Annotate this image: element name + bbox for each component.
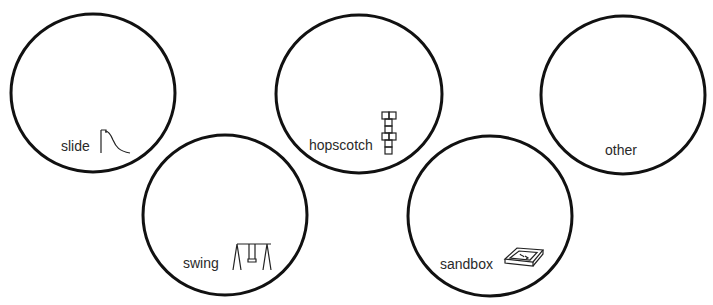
slide-icon [99, 127, 133, 155]
drop-zone-slide[interactable] [11, 14, 175, 172]
label-swing: swing [183, 255, 219, 271]
label-sandbox: sandbox [440, 256, 493, 272]
label-hopscotch: hopscotch [309, 137, 373, 153]
hopscotch-icon [380, 111, 398, 159]
drop-zone-swing[interactable] [143, 135, 307, 295]
sandbox-icon [503, 245, 545, 269]
swing-icon [231, 242, 275, 272]
label-other: other [605, 142, 637, 158]
drop-zone-sandbox[interactable] [408, 136, 572, 296]
label-slide: slide [61, 138, 90, 154]
